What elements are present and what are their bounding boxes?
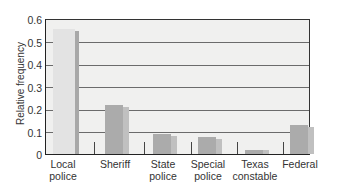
category-separator — [283, 142, 284, 154]
category-separator — [191, 142, 192, 154]
bar-sheriff — [105, 105, 123, 154]
gridline — [46, 65, 309, 66]
bar-federal-secondary — [308, 127, 314, 154]
gridline — [46, 132, 309, 133]
x-tick-label: Federal — [270, 158, 330, 170]
bar-special-police-secondary — [216, 139, 222, 154]
gridline — [46, 42, 309, 43]
category-separator — [94, 142, 95, 154]
y-tick: 0.1 — [18, 127, 42, 139]
y-tick: 0.6 — [18, 14, 42, 26]
bar-local-police — [53, 29, 75, 154]
plot-area — [45, 19, 310, 155]
x-tick-label: Localpolice — [33, 158, 93, 182]
bar-texas-constable-secondary — [263, 150, 269, 154]
bar-local-police-secondary — [75, 31, 79, 154]
category-separator — [237, 142, 238, 154]
bar-texas-constable — [245, 150, 263, 154]
y-tick: 0.2 — [18, 104, 42, 116]
category-separator — [144, 142, 145, 154]
gridline — [46, 87, 309, 88]
y-tick: 0.3 — [18, 82, 42, 94]
gridline — [46, 110, 309, 111]
bar-chart: Relative frequency 0 0.1 0.2 0.3 0.4 0.5… — [0, 0, 337, 194]
bar-special-police — [198, 137, 216, 154]
bar-state-police — [153, 134, 171, 154]
bar-state-police-secondary — [171, 136, 177, 154]
bar-sheriff-secondary — [123, 107, 129, 154]
y-tick: 0.5 — [18, 37, 42, 49]
bar-federal — [290, 125, 308, 154]
y-tick: 0.4 — [18, 59, 42, 71]
